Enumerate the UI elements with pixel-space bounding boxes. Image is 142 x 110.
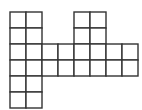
grid-cell <box>90 28 106 44</box>
grid-cell <box>26 60 42 76</box>
grid-cell <box>42 44 58 60</box>
grid-cell <box>42 60 58 76</box>
grid-cell <box>58 44 74 60</box>
grid-cell <box>10 44 26 60</box>
grid-cell <box>10 92 26 108</box>
grid-cell <box>10 28 26 44</box>
grid-cell <box>10 76 26 92</box>
grid-cell <box>26 44 42 60</box>
grid-cell <box>122 60 138 76</box>
grid-cell <box>74 60 90 76</box>
grid-cell <box>26 92 42 108</box>
grid-cell <box>74 28 90 44</box>
grid-cell <box>58 60 74 76</box>
grid-cell <box>74 44 90 60</box>
grid-cell <box>26 76 42 92</box>
grid-cell <box>122 44 138 60</box>
grid-cell <box>90 12 106 28</box>
grid-cell <box>26 12 42 28</box>
grid-cell <box>106 44 122 60</box>
grid-cell <box>90 60 106 76</box>
grid-cell <box>10 60 26 76</box>
grid-cell <box>10 12 26 28</box>
polyomino-grid-diagram <box>0 0 142 110</box>
grid-cell <box>26 28 42 44</box>
grid-cell <box>90 44 106 60</box>
grid-cell <box>106 60 122 76</box>
grid-cell <box>74 12 90 28</box>
